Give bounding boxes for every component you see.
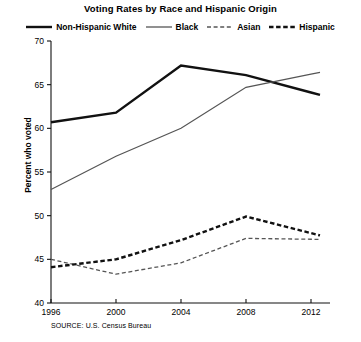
x-axis-tick-label: 1996: [42, 307, 61, 317]
y-axis-tick-label: 65: [35, 80, 45, 90]
y-axis-tick-label: 55: [35, 167, 45, 177]
series-line-hispanic: [51, 217, 320, 268]
series-line-black: [51, 72, 320, 189]
source-note: SOURCE: U.S. Census Bureau: [51, 322, 151, 329]
y-axis-tick-label: 60: [35, 123, 45, 133]
series-line-non-hispanic-white: [51, 65, 320, 122]
x-axis-tick-label: 2000: [107, 307, 126, 317]
plot-area: 4045505560657019962000200420082012: [0, 0, 361, 342]
y-axis-tick-label: 50: [35, 211, 45, 221]
y-axis-tick-label: 70: [35, 36, 45, 46]
series-line-asian: [51, 238, 320, 274]
y-axis-tick-label: 45: [35, 254, 45, 264]
x-axis-tick-label: 2012: [302, 307, 321, 317]
x-axis-tick-label: 2008: [237, 307, 256, 317]
x-axis-tick-label: 2004: [172, 307, 191, 317]
voting-rates-line-chart: Voting Rates by Race and Hispanic Origin…: [0, 0, 361, 342]
